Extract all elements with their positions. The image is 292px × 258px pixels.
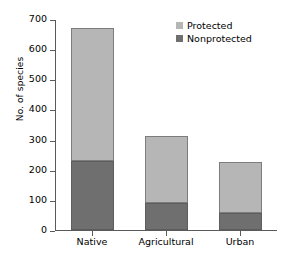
legend-item-nonprotected: Nonprotected	[176, 32, 252, 45]
bar-agricultural[interactable]	[145, 136, 188, 230]
legend-label-protected: Protected	[187, 20, 232, 31]
y-tick: 0	[50, 231, 55, 232]
bar-urban[interactable]	[219, 162, 262, 230]
y-tick-label: 400	[29, 103, 47, 114]
y-tick-label: 0	[41, 224, 47, 235]
bar-segment-protected[interactable]	[145, 136, 188, 204]
y-tick-label: 600	[29, 43, 47, 54]
bar-segment-nonprotected[interactable]	[219, 213, 262, 230]
y-tick: 600	[50, 50, 55, 51]
y-tick: 700	[50, 20, 55, 21]
legend-label-nonprotected: Nonprotected	[187, 33, 252, 44]
y-axis-title: No. of species	[15, 19, 25, 159]
y-tick-label: 300	[29, 134, 47, 145]
y-tick-label: 500	[29, 73, 47, 84]
y-tick-label: 700	[29, 13, 47, 24]
y-tick-label: 200	[29, 164, 47, 175]
y-tick: 400	[50, 110, 55, 111]
legend: Protected Nonprotected	[176, 19, 252, 45]
legend-item-protected: Protected	[176, 19, 252, 32]
bar-segment-protected[interactable]	[71, 28, 114, 161]
stacked-bar-chart: No. of species 0100200300400500600700 Na…	[0, 0, 292, 258]
legend-swatch-nonprotected-icon	[176, 35, 183, 42]
y-tick: 100	[50, 201, 55, 202]
bar-segment-nonprotected[interactable]	[71, 161, 114, 230]
plot-area: 0100200300400500600700	[55, 20, 277, 231]
x-label-urban: Urban	[190, 236, 290, 247]
bar-native[interactable]	[71, 28, 114, 230]
y-tick: 200	[50, 171, 55, 172]
y-tick-label: 100	[29, 194, 47, 205]
y-tick: 300	[50, 141, 55, 142]
y-tick: 500	[50, 80, 55, 81]
legend-swatch-protected-icon	[176, 22, 183, 29]
bar-segment-protected[interactable]	[219, 162, 262, 213]
bar-segment-nonprotected[interactable]	[145, 203, 188, 230]
y-axis-line	[55, 20, 56, 231]
